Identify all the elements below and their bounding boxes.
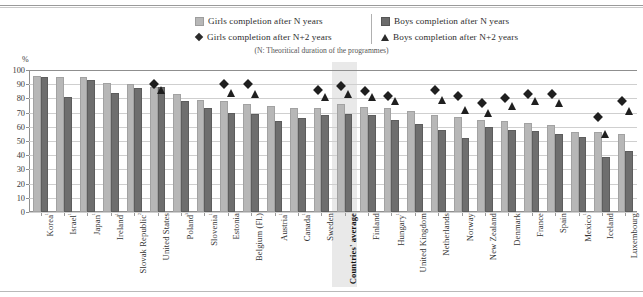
x-axis-label: Countries' average: [348, 213, 358, 284]
x-tick-mark: [158, 213, 159, 216]
marker-boys-n2: [321, 93, 329, 101]
x-axis-label: Canada¹: [301, 213, 312, 241]
bar-girls-n: [337, 104, 345, 212]
bar-group: [380, 70, 403, 212]
legend-column-boys: Boys completion after N years Boys compl…: [381, 13, 541, 45]
plot-area: 0102030405060708090100: [29, 70, 637, 212]
marker-girls-n2: [453, 91, 463, 101]
x-tick-mark: [41, 213, 42, 216]
x-axis-label: Norway: [465, 213, 475, 241]
bar-group: [263, 70, 286, 212]
x-tick-mark: [602, 213, 603, 216]
x-axis-label: Israel¹: [67, 213, 78, 235]
bar-girls-n: [197, 100, 205, 212]
marker-boys-n2: [508, 102, 516, 110]
legend-item-girls-n: Girls completion after N years: [195, 13, 363, 29]
chart-note: (N: Theoritical duration of the programm…: [0, 46, 643, 55]
legend-label-boys-n2: Boys completion after N+2 years: [393, 32, 518, 42]
bar-group: [403, 70, 426, 212]
marker-girls-n2: [430, 85, 440, 95]
bar-girls-n: [56, 77, 64, 212]
bar-boys-n: [368, 115, 376, 212]
bar-girls-n: [243, 104, 251, 212]
chart-legend: Girls completion after N years Girls com…: [195, 13, 540, 45]
bar-boys-n: [87, 80, 95, 212]
x-tick-mark: [532, 213, 533, 216]
x-tick-mark: [625, 213, 626, 216]
x-tick-mark: [462, 213, 463, 216]
x-tick-mark: [251, 213, 252, 216]
bar-group: [99, 70, 122, 212]
bar-group: [333, 70, 356, 212]
x-axis-label: Sweden: [325, 213, 335, 241]
x-axis-label: Netherlands: [441, 213, 451, 256]
bar-group: [286, 70, 309, 212]
bar-group: [216, 70, 239, 212]
bar-boys-n: [438, 130, 446, 212]
chart-figure: Girls completion after N years Girls com…: [0, 0, 643, 297]
bar-boys-n: [134, 88, 142, 212]
marker-boys-n2: [625, 107, 633, 115]
bottom-rule: [0, 291, 643, 292]
x-tick-mark: [321, 213, 322, 216]
bar-girls-n: [103, 83, 111, 212]
y-tick-label-10: 10: [17, 193, 25, 202]
bar-girls-n: [594, 132, 602, 212]
y-tick-label-100: 100: [12, 66, 25, 75]
square-dark-icon: [381, 17, 390, 26]
marker-boys-n2: [531, 97, 539, 105]
x-axis-label: Hungary¹: [395, 213, 406, 246]
bar-girls-n: [501, 121, 509, 212]
x-axis-label: Iceland: [605, 213, 615, 239]
bar-group: [427, 70, 450, 212]
bar-girls-n: [360, 107, 368, 212]
y-tick-label-50: 50: [17, 137, 25, 146]
marker-girls-n2: [547, 89, 557, 99]
y-tick-label-20: 20: [17, 179, 25, 188]
bar-group: [310, 70, 333, 212]
bar-boys-n: [275, 121, 283, 212]
marker-boys-n2: [555, 99, 563, 107]
bar-girls-n: [267, 106, 275, 213]
bar-boys-n: [462, 138, 470, 212]
y-tick-label-0: 0: [21, 208, 25, 217]
bar-boys-n: [391, 120, 399, 212]
x-tick-mark: [415, 213, 416, 216]
legend-column-girls: Girls completion after N years Girls com…: [195, 13, 363, 45]
bar-boys-n: [111, 93, 119, 212]
bar-boys-n: [321, 115, 329, 212]
bar-boys-n: [508, 130, 516, 212]
bar-group: [76, 70, 99, 212]
legend-divider: [371, 14, 372, 44]
bar-group: [473, 70, 496, 212]
bar-group: [590, 70, 613, 212]
bar-group: [614, 70, 637, 212]
x-tick-mark: [485, 213, 486, 216]
bar-group: [29, 70, 52, 212]
marker-girls-n2: [243, 79, 253, 89]
marker-boys-n2: [601, 130, 609, 138]
bar-boys-n: [298, 118, 306, 212]
bar-group: [123, 70, 146, 212]
bar-boys-n: [485, 127, 493, 212]
top-rule-secondary: [0, 7, 643, 8]
legend-item-boys-n: Boys completion after N years: [381, 13, 541, 29]
bar-group: [543, 70, 566, 212]
marker-girls-n2: [336, 81, 346, 91]
x-tick-mark: [181, 213, 182, 216]
marker-girls-n2: [617, 96, 627, 106]
y-tick-label-40: 40: [17, 151, 25, 160]
bar-boys-n: [532, 131, 540, 212]
x-tick-mark: [64, 213, 65, 216]
bar-group: [193, 70, 216, 212]
marker-boys-n2: [157, 86, 165, 94]
x-tick-mark: [228, 213, 229, 216]
bar-girls-n: [80, 77, 88, 212]
bar-group: [52, 70, 75, 212]
bar-girls-n: [431, 115, 439, 212]
x-axis-label: Finland: [371, 213, 381, 240]
x-tick-mark: [555, 213, 556, 216]
x-axis-label: Belgium (Fl.): [254, 213, 264, 261]
bar-group: [567, 70, 590, 212]
bar-girls-n: [33, 76, 41, 212]
